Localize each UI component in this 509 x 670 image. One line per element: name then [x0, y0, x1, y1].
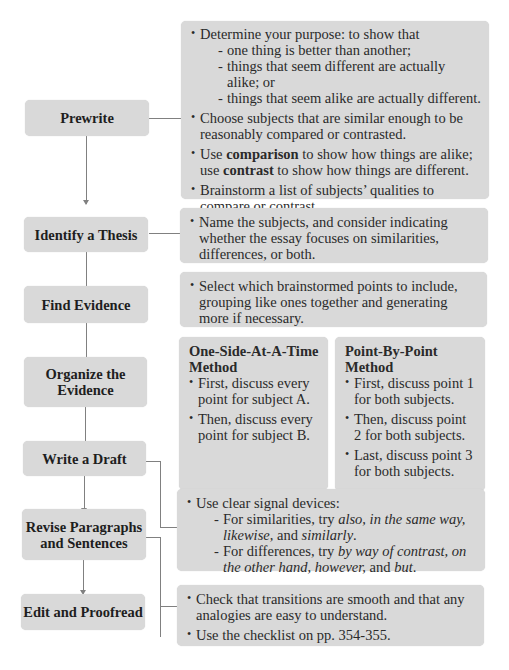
connector-prewrite	[149, 118, 181, 119]
step-label: Find Evidence	[41, 297, 130, 313]
connector-draft	[146, 461, 161, 462]
text: Use	[200, 146, 226, 162]
bullet: Determine your purpose: to show that one…	[191, 26, 481, 106]
text: and	[273, 527, 301, 543]
arrow-down-icon	[83, 200, 89, 205]
revise-checklist-panel: Check that transitions are smooth and th…	[177, 585, 484, 646]
bullet: Then, discuss point 2 for both subjects.	[345, 411, 477, 443]
example-words: but	[394, 559, 413, 575]
flow-connector	[84, 476, 85, 512]
bullet-text: Determine your purpose: to show that	[200, 26, 419, 42]
bullet: First, discuss every point for subject A…	[189, 375, 320, 407]
sub-item: things that seem different are actually …	[200, 58, 481, 90]
bullet: First, discuss point 1 for both subjects…	[345, 375, 477, 407]
text: For similarities, try	[223, 511, 338, 527]
thesis-panel: Name the subjects, and consider indicati…	[180, 208, 488, 263]
bullet: Use the checklist on pp. 354-355.	[187, 627, 476, 643]
bullet: Select which brainstormed points to incl…	[190, 278, 479, 326]
bullet: Choose subjects that are similar enough …	[191, 110, 481, 142]
text: For differences, try	[223, 543, 338, 559]
step-label-line: Evidence	[57, 382, 113, 398]
step-label-line: Organize the	[45, 366, 125, 382]
step-label-line: Revise Paragraphs	[26, 519, 142, 535]
text: to show how things are different.	[274, 162, 469, 178]
method-title: Point-By-Point	[345, 343, 477, 359]
step-label: Edit and Proofread	[23, 604, 143, 620]
step-write-draft: Write a Draft	[23, 441, 146, 476]
example-words: similarly	[302, 527, 354, 543]
bullet: Then, discuss every point for subject B.	[189, 411, 320, 443]
step-prewrite: Prewrite	[25, 100, 149, 136]
connector-revise	[146, 537, 161, 538]
bullet: Use clear signal devices: For similariti…	[187, 495, 477, 575]
step-label-line: and Sentences	[40, 535, 127, 551]
term-contrast: contrast	[223, 162, 274, 178]
sub-item: one thing is better than another;	[200, 42, 481, 58]
step-identify-thesis: Identify a Thesis	[24, 217, 148, 252]
text: .	[413, 559, 417, 575]
text: .	[353, 527, 357, 543]
step-organize-evidence: Organize the Evidence	[24, 357, 147, 407]
sub-item-differences: For differences, try by way of contrast,…	[196, 543, 477, 575]
evidence-panel: Select which brainstormed points to incl…	[180, 272, 487, 327]
flow-connector	[86, 136, 87, 204]
method-title: Method	[345, 359, 477, 375]
text: and	[366, 559, 394, 575]
bullet: Use comparison to show how things are al…	[191, 146, 481, 178]
one-side-method-panel: One-Side-At-A-Time Method First, discuss…	[179, 337, 328, 490]
connector-draft	[160, 461, 161, 528]
sub-item-similarities: For similarities, try also, in the same …	[196, 511, 477, 543]
step-label: Write a Draft	[42, 451, 126, 467]
method-title: Method	[189, 359, 320, 375]
bullet: Check that transitions are smooth and th…	[187, 591, 476, 623]
bullet: Last, discuss point 3 for both subjects.	[345, 447, 477, 479]
connector-thesis	[149, 233, 181, 234]
bullet-text: Use clear signal devices:	[196, 495, 340, 511]
step-label: Identify a Thesis	[35, 227, 138, 243]
step-label: Prewrite	[60, 110, 114, 126]
step-revise: Revise Paragraphs and Sentences	[22, 509, 146, 560]
signal-devices-panel: Use clear signal devices: For similariti…	[177, 489, 485, 571]
prewrite-panel: Determine your purpose: to show that one…	[181, 21, 489, 199]
method-title: One-Side-At-A-Time	[189, 343, 320, 359]
step-find-evidence: Find Evidence	[24, 286, 148, 323]
bullet: Name the subjects, and consider indicati…	[190, 214, 480, 262]
connector-revise	[160, 537, 161, 637]
term-comparison: comparison	[226, 146, 299, 162]
step-edit-proofread: Edit and Proofread	[21, 594, 145, 630]
point-by-point-method-panel: Point-By-Point Method First, discuss poi…	[335, 337, 485, 491]
connector-revise	[160, 606, 177, 607]
connector-draft	[160, 527, 177, 528]
sub-item: things that seem alike are actually diff…	[200, 90, 481, 106]
